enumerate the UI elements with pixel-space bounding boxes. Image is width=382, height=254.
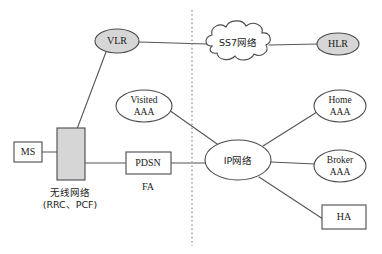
ms-label: MS — [21, 146, 35, 157]
broker-aaa-label-line1: Broker — [327, 155, 354, 165]
radio-network-caption-line1: 无线网络 — [50, 187, 90, 198]
edge-radio-to-vlr — [77, 52, 106, 129]
hlr-label: HLR — [328, 38, 348, 49]
node-vlr[interactable]: VLR — [95, 29, 139, 53]
node-hlr[interactable]: HLR — [317, 33, 359, 55]
node-radio-network[interactable] — [57, 128, 85, 180]
ss7-label: SS7网络 — [219, 37, 257, 48]
edge-ip-to-broker — [271, 162, 315, 164]
pdsn-fa-caption: FA — [142, 181, 155, 192]
node-ha[interactable]: HA — [322, 205, 366, 229]
node-pdsn[interactable]: PDSN — [126, 152, 171, 174]
edge-ss7-to-hlr — [269, 44, 318, 45]
edge-ip-to-ha — [259, 177, 323, 219]
radio-network-caption-line2: (RRC、PCF) — [43, 199, 98, 210]
node-ss7-cloud[interactable]: SS7网络 — [206, 21, 270, 60]
broker-aaa-label-line2: AAA — [330, 167, 351, 177]
network-diagram: MS 无线网络 (RRC、PCF) PDSN FA VLR SS7网络 HLR — [0, 0, 382, 254]
ha-label: HA — [337, 211, 352, 222]
node-broker-aaa[interactable]: Broker AAA — [314, 150, 366, 182]
visited-aaa-label-line2: AAA — [134, 107, 155, 117]
node-ms[interactable]: MS — [14, 142, 42, 162]
visited-aaa-label-line1: Visited — [131, 95, 158, 105]
edge-ip-to-home — [263, 112, 317, 146]
pdsn-label: PDSN — [135, 157, 161, 168]
ip-network-label: IP网络 — [224, 155, 253, 166]
vlr-label: VLR — [107, 35, 127, 46]
home-aaa-label-line1: Home — [328, 95, 351, 105]
diagram-canvas: MS 无线网络 (RRC、PCF) PDSN FA VLR SS7网络 HLR — [0, 0, 382, 254]
edge-vlr-to-ss7 — [139, 42, 207, 44]
radio-network-box[interactable] — [57, 128, 85, 180]
node-home-aaa[interactable]: Home AAA — [314, 90, 366, 122]
node-ip-network[interactable]: IP网络 — [205, 140, 271, 180]
edge-visited-to-ip — [169, 110, 220, 146]
node-visited-aaa[interactable]: Visited AAA — [116, 90, 172, 122]
home-aaa-label-line2: AAA — [330, 107, 351, 117]
